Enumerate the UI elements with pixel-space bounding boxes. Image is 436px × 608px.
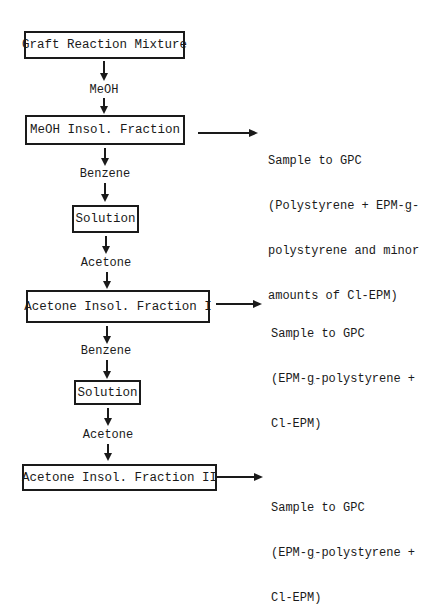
arrow-down-icon	[103, 281, 111, 289]
arrow-down-icon	[101, 194, 109, 202]
reagent-label: Benzene	[80, 167, 130, 181]
arrow-down-icon	[100, 106, 108, 114]
node-label: Solution	[77, 386, 137, 400]
sample-note-line: polystyrene and minor	[268, 244, 419, 259]
sample-note: Sample to GPC (EPM-g-polystyrene + Cl-EP…	[271, 297, 415, 447]
sample-note-line: Cl-EPM)	[271, 591, 415, 606]
node-label: Graft Reaction Mixture	[22, 38, 187, 52]
arrow-down-icon	[100, 73, 108, 81]
node-solution-1: Solution	[72, 205, 139, 233]
node-label: Acetone Insol. Fraction I	[24, 300, 212, 314]
node-label: Acetone Insol. Fraction II	[22, 471, 217, 485]
arrow-right-icon	[253, 300, 262, 308]
sample-note-line: Sample to GPC	[271, 327, 415, 342]
reagent-label: Acetone	[83, 428, 133, 442]
sample-note-line: Cl-EPM)	[271, 417, 415, 432]
reagent-label: MeOH	[90, 83, 119, 97]
node-label: Solution	[75, 212, 135, 226]
arrow-right-icon	[254, 473, 263, 481]
arrow-down-icon	[103, 371, 111, 379]
reagent-label: Acetone	[81, 256, 131, 270]
sample-note-line: Sample to GPC	[271, 501, 415, 516]
sample-arrow-shaft	[198, 132, 250, 134]
sample-note-line: (EPM-g-polystyrene +	[271, 372, 415, 387]
node-acetone-insol-fraction-1: Acetone Insol. Fraction I	[26, 290, 210, 323]
arrow-right-icon	[249, 129, 258, 137]
node-meoh-insol-fraction: MeOH Insol. Fraction	[25, 115, 185, 145]
sample-note: Sample to GPC (Polystyrene + EPM-g- poly…	[268, 124, 419, 319]
node-graft-reaction-mixture: Graft Reaction Mixture	[24, 31, 185, 59]
arrow-down-icon	[101, 158, 109, 166]
sample-note-line: (EPM-g-polystyrene +	[271, 546, 415, 561]
arrow-down-icon	[103, 336, 111, 344]
sample-arrow-shaft	[216, 303, 254, 305]
sample-arrow-shaft	[217, 476, 255, 478]
sample-note: Sample to GPC (EPM-g-polystyrene + Cl-EP…	[271, 471, 415, 608]
node-label: MeOH Insol. Fraction	[30, 123, 180, 137]
node-solution-2: Solution	[74, 380, 141, 405]
sample-note-line: Sample to GPC	[268, 154, 419, 169]
sample-note-line: (Polystyrene + EPM-g-	[268, 199, 419, 214]
node-acetone-insol-fraction-2: Acetone Insol. Fraction II	[22, 464, 217, 491]
arrow-down-icon	[102, 246, 110, 254]
arrow-down-icon	[104, 418, 112, 426]
arrow-down-icon	[104, 453, 112, 461]
reagent-label: Benzene	[81, 344, 131, 358]
